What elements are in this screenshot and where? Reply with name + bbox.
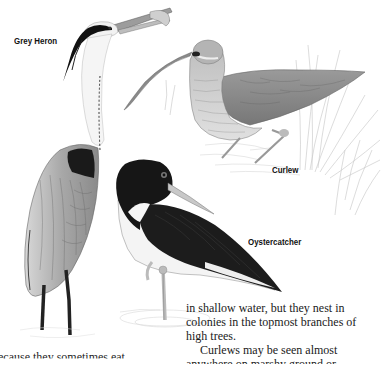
text-line: anywhere on marshy ground or (186, 357, 356, 368)
curlew-label: Curlew (272, 165, 298, 175)
text-line: colonies in the topmost branches of (186, 315, 356, 329)
oystercatcher-label: Oystercatcher (248, 237, 301, 247)
text-line: high trees. (186, 329, 356, 343)
body-text-right: in shallow water, but they nest in colon… (186, 301, 356, 368)
text-line: because they sometimes eat (0, 350, 125, 364)
text-line: Curlews may be seen almost (186, 343, 356, 357)
body-text-left: because they sometimes eat (0, 350, 125, 364)
text-line: in shallow water, but they nest in (186, 301, 356, 315)
grey-heron-label: Grey Heron (14, 36, 57, 46)
